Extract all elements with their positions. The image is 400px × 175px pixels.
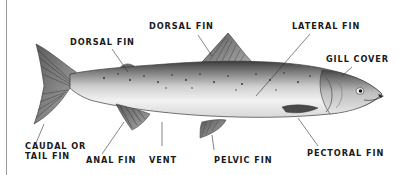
pelvic-fin-shape <box>200 120 226 138</box>
label-pectoral-fin: PECTORAL FIN <box>307 148 384 158</box>
label-anal-fin: ANAL FIN <box>86 155 136 165</box>
label-dorsal-fin-rear: DORSAL FIN <box>149 21 214 31</box>
label-caudal-fin-line1: CAUDAL OR <box>25 141 86 151</box>
label-dorsal-fin-front: DORSAL FIN <box>70 37 135 47</box>
leader-pelvic <box>212 135 214 150</box>
label-vent: VENT <box>149 155 177 165</box>
dorsal-fin-shape <box>202 33 252 62</box>
label-caudal-fin-line2: TAIL FIN <box>25 151 70 161</box>
leader-pectoral <box>298 118 318 146</box>
label-gill-cover: GILL COVER <box>326 54 389 64</box>
label-lateral-fin: LATERAL FIN <box>292 21 360 31</box>
leader-anal <box>102 122 124 154</box>
leader-dorsal-rear <box>198 35 212 56</box>
label-pelvic-fin: PELVIC FIN <box>214 155 272 165</box>
fish-anatomy-diagram: DORSAL FIN DORSAL FIN LATERAL FIN GILL C… <box>0 0 400 175</box>
